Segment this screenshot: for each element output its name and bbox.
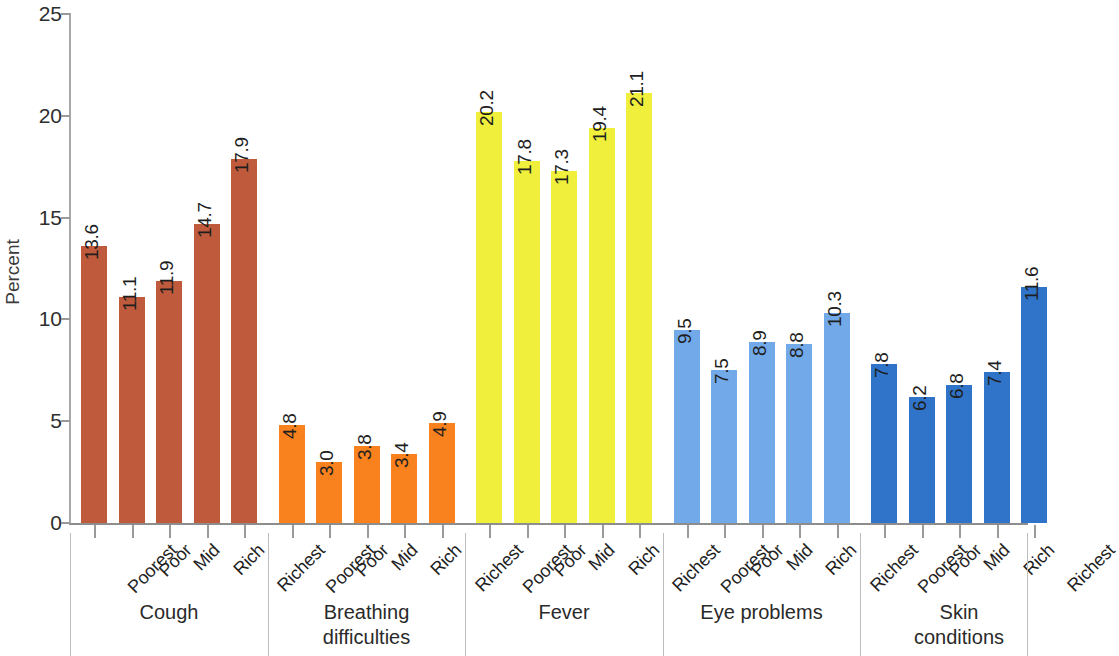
x-axis-category-label: Rich	[624, 540, 664, 580]
y-tick-mark	[61, 318, 70, 320]
group-label-line: Breathing	[268, 600, 466, 625]
x-axis-category-label: Rich	[426, 540, 466, 580]
bar-value-label: 20.2	[476, 90, 498, 126]
x-tick-mark	[329, 525, 331, 538]
x-tick-mark	[132, 525, 134, 538]
bar	[711, 370, 737, 523]
x-tick-mark	[207, 525, 209, 538]
bar	[1021, 287, 1047, 523]
x-tick-mark	[724, 525, 726, 538]
bar-value-label: 11.1	[119, 277, 141, 311]
x-axis-category-label: Rich	[1019, 540, 1059, 580]
x-axis-category-label: Mid	[979, 540, 1014, 575]
x-axis-category-label: Mid	[387, 540, 422, 575]
x-tick-mark	[169, 525, 171, 538]
x-tick-mark	[367, 525, 369, 538]
bar-value-label: 11.9	[156, 260, 178, 294]
bar	[984, 372, 1010, 523]
bar	[194, 224, 220, 523]
bar-value-label: 7.4	[984, 361, 1006, 387]
y-tick-label: 0	[18, 512, 62, 533]
bar-value-label: 8.8	[786, 332, 808, 358]
bar-value-label: 11.6	[1021, 266, 1043, 300]
bar	[946, 385, 972, 523]
bar	[231, 159, 257, 523]
x-axis-category-label: Mid	[782, 540, 817, 575]
bar	[476, 112, 502, 523]
group-label-line: conditions	[860, 625, 1058, 650]
x-axis-category-label: Richest	[1063, 540, 1119, 596]
x-tick-mark	[922, 525, 924, 538]
bar	[749, 342, 775, 523]
bar	[871, 364, 897, 523]
x-axis-category-label: Richest	[273, 540, 329, 596]
bar	[674, 330, 700, 523]
y-tick-label: 15	[18, 207, 62, 228]
x-tick-mark	[639, 525, 641, 538]
y-axis-line	[69, 13, 71, 524]
bar-value-label: 7.5	[711, 359, 733, 385]
x-tick-mark	[799, 525, 801, 538]
bar	[279, 425, 305, 523]
bar	[551, 171, 577, 523]
group-label-line: Eye problems	[663, 600, 861, 625]
x-axis-category-label: Rich	[821, 540, 861, 580]
x-axis-category-label: Mid	[584, 540, 619, 575]
group-label: Breathingdifficulties	[268, 600, 466, 650]
bar	[119, 297, 145, 523]
bar-value-label: 17.9	[231, 137, 253, 173]
bar-value-label: 6.2	[909, 385, 931, 411]
x-tick-mark	[762, 525, 764, 538]
bar-value-label: 3.8	[354, 434, 376, 460]
bar-value-label: 13.6	[81, 224, 103, 260]
bar-value-label: 9.5	[674, 318, 696, 344]
y-tick-mark	[61, 420, 70, 422]
x-axis-category-label: Richest	[668, 540, 724, 596]
group-label-line: difficulties	[268, 625, 466, 650]
y-tick-label: 5	[18, 410, 62, 431]
x-axis-category-label: Rich	[229, 540, 269, 580]
group-label-line: Fever	[465, 600, 663, 625]
x-tick-mark	[442, 525, 444, 538]
bar	[786, 344, 812, 523]
bar-value-label: 4.8	[279, 414, 301, 440]
x-tick-mark	[527, 525, 529, 538]
group-separator	[70, 533, 71, 656]
y-axis-title: Percent	[2, 227, 24, 317]
y-tick-mark	[61, 115, 70, 117]
bar-value-label: 6.8	[946, 373, 968, 399]
group-separator	[465, 533, 466, 656]
x-tick-mark	[1034, 525, 1036, 538]
x-axis-category-label: Richest	[866, 540, 922, 596]
x-tick-mark	[884, 525, 886, 538]
bar-value-label: 8.9	[749, 330, 771, 356]
group-separator	[663, 533, 664, 656]
y-tick-mark	[61, 522, 70, 524]
bar	[429, 423, 455, 523]
group-label: Skinconditions	[860, 600, 1058, 650]
x-tick-mark	[404, 525, 406, 538]
bar	[909, 397, 935, 523]
bar-value-label: 17.8	[514, 139, 536, 175]
bar-value-label: 21.1	[626, 72, 648, 108]
x-tick-mark	[997, 525, 999, 538]
x-tick-mark	[489, 525, 491, 538]
x-tick-mark	[687, 525, 689, 538]
bar-value-label: 7.8	[871, 353, 893, 379]
y-tick-label: 10	[18, 308, 62, 329]
bar	[514, 161, 540, 523]
x-tick-mark	[837, 525, 839, 538]
bar-value-label: 3.0	[316, 450, 338, 476]
bar-value-label: 19.4	[589, 106, 611, 142]
y-tick-label: 25	[18, 3, 62, 24]
group-label: Eye problems	[663, 600, 861, 625]
x-tick-mark	[244, 525, 246, 538]
bar	[626, 93, 652, 523]
x-tick-mark	[292, 525, 294, 538]
group-label: Fever	[465, 600, 663, 625]
bar	[824, 313, 850, 523]
bar-value-label: 3.4	[391, 442, 413, 468]
x-tick-mark	[564, 525, 566, 538]
bar	[156, 281, 182, 523]
